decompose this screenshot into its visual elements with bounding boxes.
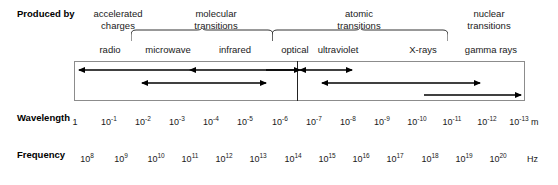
- tick: 10-5: [237, 117, 253, 128]
- tick-exponent: 13: [259, 152, 266, 159]
- tick: 10-13: [509, 117, 528, 128]
- tick: 10-2: [135, 117, 151, 128]
- tick-exponent: -8: [350, 115, 356, 122]
- tick: 1015: [318, 154, 335, 165]
- tick-exponent: 11: [192, 152, 199, 159]
- tick-exponent: 10: [157, 152, 164, 159]
- tick-exponent: 18: [431, 152, 438, 159]
- tick-mantissa: 10: [101, 117, 111, 127]
- tick-exponent: 9: [124, 152, 128, 159]
- frequency-row-label: Frequency: [17, 149, 65, 161]
- tick-mantissa: 10: [215, 154, 225, 164]
- source-label-line: atomic: [299, 8, 419, 20]
- tick-mantissa: 10: [284, 154, 294, 164]
- tick-mantissa: 10: [407, 117, 417, 127]
- tick: 1017: [386, 154, 403, 165]
- tick-mantissa: 10: [237, 117, 247, 127]
- tick-exponent: -3: [179, 115, 185, 122]
- tick-mantissa: 10: [114, 154, 124, 164]
- tick: 10-3: [169, 117, 185, 128]
- brace-atomic-brace: [272, 29, 448, 42]
- tick-exponent: 14: [294, 152, 301, 159]
- tick-exponent: 20: [499, 152, 506, 159]
- tick-mantissa: 10: [443, 117, 453, 127]
- tick-mantissa: 10: [272, 117, 282, 127]
- tick-mantissa: 10: [147, 154, 157, 164]
- tick-exponent: 16: [362, 152, 369, 159]
- tick: 10-7: [306, 117, 322, 128]
- tick-exponent: -4: [213, 115, 219, 122]
- tick: 108: [80, 154, 94, 165]
- tick-exponent: -1: [111, 115, 117, 122]
- tick: 1010: [147, 154, 164, 165]
- band-label-gamma-rays: gamma rays: [436, 44, 546, 56]
- tick-mantissa: 10: [489, 154, 499, 164]
- tick: 10-9: [374, 117, 390, 128]
- brace-molecular-brace: [131, 29, 273, 42]
- tick-mantissa: 10: [509, 117, 519, 127]
- tick-exponent: -11: [453, 115, 462, 122]
- tick-mantissa: 10: [318, 154, 328, 164]
- tick-exponent: -12: [487, 115, 496, 122]
- tick-mantissa: 10: [169, 117, 179, 127]
- spectrum-divider-line: [297, 61, 298, 101]
- tick-exponent: -5: [247, 115, 253, 122]
- tick-mantissa: 10: [455, 154, 465, 164]
- tick-exponent: -13: [519, 115, 528, 122]
- tick-exponent: 8: [90, 152, 94, 159]
- tick-exponent: -7: [316, 115, 322, 122]
- em-spectrum-diagram: Produced by acceleratedchargesmoleculart…: [0, 0, 558, 185]
- tick-mantissa: 10: [477, 117, 487, 127]
- tick-exponent: 12: [225, 152, 232, 159]
- tick-mantissa: 10: [386, 154, 396, 164]
- tick-exponent: -9: [384, 115, 390, 122]
- tick: 1011: [182, 154, 199, 165]
- tick-mantissa: 10: [203, 117, 213, 127]
- tick-mantissa: 10: [182, 154, 192, 164]
- tick-mantissa: 1: [72, 117, 77, 127]
- tick: 10-10: [407, 117, 426, 128]
- tick-exponent: -2: [145, 115, 151, 122]
- tick-mantissa: 10: [374, 117, 384, 127]
- tick-mantissa: 10: [135, 117, 145, 127]
- tick: 1019: [455, 154, 472, 165]
- tick-exponent: 17: [396, 152, 403, 159]
- tick: 1012: [215, 154, 232, 165]
- tick-exponent: 15: [328, 152, 335, 159]
- tick-mantissa: 10: [306, 117, 316, 127]
- tick-mantissa: 10: [352, 154, 362, 164]
- tick: 10-6: [272, 117, 288, 128]
- tick: 1013: [249, 154, 266, 165]
- source-label-line: nuclear: [429, 8, 549, 20]
- source-label-line: molecular: [156, 8, 276, 20]
- tick-mantissa: 10: [80, 154, 90, 164]
- tick-mantissa: 10: [340, 117, 350, 127]
- tick: 1014: [284, 154, 301, 165]
- wavelength-row-label: Wavelength: [17, 112, 70, 124]
- tick: 10-1: [101, 117, 117, 128]
- tick-exponent: -6: [282, 115, 288, 122]
- tick: 1020: [489, 154, 506, 165]
- tick: 10-8: [340, 117, 356, 128]
- spectrum-box: [74, 61, 525, 101]
- tick-mantissa: 10: [249, 154, 259, 164]
- tick-exponent: -10: [417, 115, 426, 122]
- tick: 1018: [421, 154, 438, 165]
- tick: 10-12: [477, 117, 496, 128]
- tick: 1016: [352, 154, 369, 165]
- tick: 10-11: [443, 117, 462, 128]
- frequency-unit: Hz: [527, 154, 538, 165]
- tick: 109: [114, 154, 128, 165]
- tick-exponent: 19: [465, 152, 472, 159]
- tick: 10-4: [203, 117, 219, 128]
- wavelength-unit: m: [531, 117, 539, 128]
- tick: 1: [72, 117, 77, 128]
- tick-mantissa: 10: [421, 154, 431, 164]
